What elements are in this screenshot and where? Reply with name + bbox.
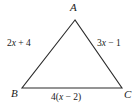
side-label-ac: 3x − 1: [97, 39, 121, 49]
vertex-label-c: C: [124, 89, 131, 100]
side-label-ab: 2x + 4: [7, 39, 31, 49]
side-bc-expression: 4(x − 2): [51, 92, 81, 102]
side-label-bc: 4(x − 2): [51, 93, 81, 103]
side-ab-expression: 2x + 4: [7, 38, 31, 48]
triangle-shape: [22, 20, 122, 88]
vertex-label-b: B: [11, 88, 18, 99]
vertex-label-a: A: [70, 2, 77, 13]
side-ac-expression: 3x − 1: [97, 38, 121, 48]
triangle-figure: A B C 2x + 4 3x − 1 4(x − 2): [0, 0, 140, 108]
